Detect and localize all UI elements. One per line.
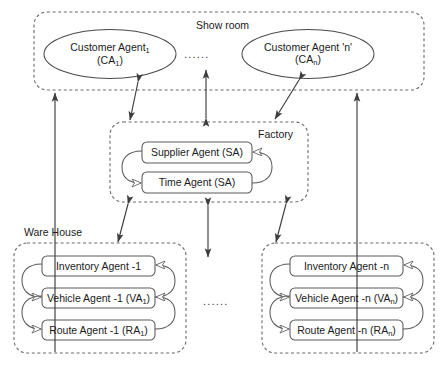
factory-label: Factory: [258, 128, 293, 140]
ca1-to-factory-diagonal-arrow: [130, 82, 138, 120]
factory-to-warehouse-right-diagonal-arrow: [276, 204, 286, 242]
time-agent-label: Time Agent (SA): [142, 176, 252, 188]
factory-right-curve-arrow: [252, 152, 272, 183]
agent-architecture-diagram: Show room Factory Ware House Customer Ag…: [0, 0, 444, 369]
can-code-subscript: n: [313, 58, 317, 67]
ca1-code: (CA: [97, 54, 115, 66]
roun-pre: Route Agent -n (RA: [297, 324, 388, 336]
can-name: Customer Agent 'n': [264, 41, 352, 53]
ca1-name: Customer Agent: [70, 41, 145, 53]
inventory-agent-1-label: Inventory Agent -1: [42, 260, 155, 272]
vehn-sub: n: [390, 297, 394, 306]
ca1-subscript: 1: [146, 46, 150, 55]
ca1-code-end: ): [119, 54, 123, 66]
factory-left-curve-arrow: [122, 151, 142, 183]
warehouse-right-curve-route-to-vehicle: [403, 297, 423, 329]
ca1-code-subscript: 1: [115, 59, 119, 68]
warehouse-left-curve-vehicle-to-route: [22, 296, 42, 329]
customer-agent-n-label: Customer Agent 'n' (CAn): [233, 41, 383, 66]
customer-agent-1-label: Customer Agent1 (CA1): [35, 41, 185, 66]
warehouse-right-curve-vehicle-to-route: [270, 296, 290, 329]
warehouse-ellipsis: ......: [203, 295, 229, 308]
roun-post: ): [392, 324, 396, 336]
warehouse-left-label: Ware House: [24, 226, 82, 238]
can-to-factory-diagonal-arrow: [275, 80, 299, 119]
veh1-pre: Vehicle Agent -1 (VA: [47, 292, 143, 304]
invn-pre: Inventory Agent -n: [304, 260, 389, 272]
factory-to-warehouse-left-diagonal-arrow: [118, 204, 128, 242]
warehouse-left-curve-route-to-vehicle: [155, 297, 175, 329]
customer-agent-n-line2: (CAn): [233, 53, 383, 66]
vehn-post: ): [395, 292, 399, 304]
warehouse-right-curve-inventory-to-vehicle: [270, 264, 290, 297]
roun-sub: n: [388, 329, 392, 338]
vehn-pre: Vehicle Agent -n (VA: [295, 292, 391, 304]
warehouse-left-curve-vehicle-to-inventory: [155, 265, 175, 297]
can-code-end: ): [317, 53, 321, 65]
rou1-post: ): [144, 324, 148, 336]
customer-agent-1-line1: Customer Agent1: [35, 41, 185, 54]
route-agent-n-label: Route Agent -n (RAn): [290, 324, 403, 337]
can-code: (CA: [295, 53, 313, 65]
supplier-agent-label: Supplier Agent (SA): [142, 146, 252, 158]
showroom-ellipsis: ......: [184, 48, 210, 61]
rou1-pre: Route Agent -1 (RA: [49, 324, 140, 336]
customer-agent-1-line2: (CA1): [35, 54, 185, 67]
warehouse-right-curve-vehicle-to-inventory: [403, 265, 423, 297]
veh1-sub: 1: [142, 297, 146, 306]
rou1-sub: 1: [140, 329, 144, 338]
showroom-label: Show room: [196, 19, 249, 31]
inventory-agent-n-label: Inventory Agent -n: [290, 260, 403, 272]
warehouse-left-curve-inventory-to-vehicle: [22, 264, 42, 297]
veh1-post: ): [147, 292, 151, 304]
vehicle-agent-n-label: Vehicle Agent -n (VAn): [290, 292, 403, 305]
vehicle-agent-1-label: Vehicle Agent -1 (VA1): [42, 292, 155, 305]
route-agent-1-label: Route Agent -1 (RA1): [42, 324, 155, 337]
inv1-pre: Inventory Agent -1: [56, 260, 141, 272]
customer-agent-n-line1: Customer Agent 'n': [233, 41, 383, 53]
